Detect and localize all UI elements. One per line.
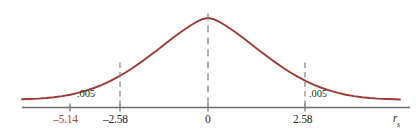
tail-area-label-right: .005 (309, 89, 327, 100)
x-axis-title-subscript: s (397, 120, 400, 129)
x-tick-label-pos-2-58: 2.58 (293, 114, 312, 126)
tail-area-label-left: .005 (77, 89, 95, 100)
x-axis-title: rs (393, 113, 401, 127)
x-tick-label-neg-2-58: –2.58 (103, 114, 128, 126)
x-tick-label-neg-5-14: –5.14 (53, 114, 78, 126)
x-tick-label-zero: 0 (205, 114, 211, 126)
normal-distribution-figure: .005 .005 –5.14 –2.58 0 2.58 rs (0, 0, 416, 135)
